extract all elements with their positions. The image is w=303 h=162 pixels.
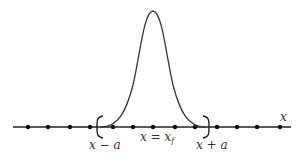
grid-point (111, 125, 115, 129)
gaussian-window-diagram: x − a x = xf x + a x (0, 0, 303, 162)
grid-point (151, 125, 155, 129)
gaussian-curve (101, 11, 205, 127)
left-bound-label: x − a (89, 138, 121, 152)
grid-point (88, 125, 92, 129)
axis-label: x (280, 110, 287, 124)
grid-point (173, 125, 177, 129)
grid-point (68, 125, 72, 129)
grid-point (235, 125, 239, 129)
grid-point (278, 125, 282, 129)
grid-point (131, 125, 135, 129)
grid-point (215, 125, 219, 129)
grid-point (26, 125, 30, 129)
grid-point (255, 125, 259, 129)
center-label: x = xf (140, 130, 176, 145)
grid-point (46, 125, 50, 129)
right-bound-label: x + a (196, 138, 228, 152)
